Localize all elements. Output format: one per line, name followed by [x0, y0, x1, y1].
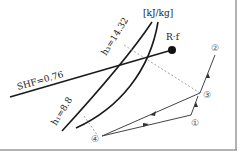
psychrometric-diagram: [kJ/kg] SHF=0.76 h₃=14.32 h₁=8.8 R·f ② ③…: [0, 0, 240, 153]
arrow-3-4: [150, 111, 156, 116]
diagram-svg: [kJ/kg] SHF=0.76 h₃=14.32 h₁=8.8 R·f ② ③…: [0, 0, 240, 153]
point-3-label: ③: [203, 90, 211, 100]
point-1-label: ①: [191, 118, 199, 128]
rf-label: R·f: [166, 32, 180, 42]
unit-label: [kJ/kg]: [143, 8, 173, 18]
dashed-guide-to-4: [84, 116, 98, 136]
h3-label: h₃=14.32: [99, 16, 130, 58]
rf-point: [168, 46, 176, 54]
point-4-label: ④: [91, 134, 99, 144]
shf-line: [10, 50, 172, 97]
process-line-4-1: [102, 115, 191, 136]
point-2-label: ②: [211, 43, 219, 53]
process-line-2-3: [200, 55, 215, 93]
